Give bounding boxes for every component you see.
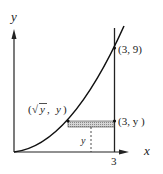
- label-point-sqrt-y-y: ( √ y , y ): [28, 103, 67, 116]
- label-point-3-9: (3, 9): [118, 43, 142, 56]
- x-axis-label: x: [143, 143, 150, 158]
- svg-text:y: y: [39, 103, 45, 115]
- diagram-canvas: y x 3 (3, 9) (3, y ) y ( √ y , y ): [0, 0, 163, 174]
- x-axis-arrow-icon: [119, 150, 129, 155]
- y-axis-arrow-icon: [12, 29, 17, 39]
- svg-text:): ): [63, 103, 67, 116]
- shaded-strip: [68, 121, 114, 127]
- point-3-9: [113, 46, 116, 49]
- label-strip-height-y: y: [80, 135, 86, 146]
- label-point-3-y: (3, y ): [118, 115, 145, 128]
- parabola-curve: [14, 26, 124, 152]
- svg-text:√: √: [32, 103, 39, 115]
- y-axis-label: y: [9, 9, 17, 24]
- point-3-y: [113, 119, 116, 122]
- svg-text:,: ,: [47, 103, 50, 115]
- x-tick-3: 3: [111, 155, 117, 167]
- y-axis: [12, 29, 17, 152]
- point-sqrt-y-y: [66, 119, 69, 122]
- x-axis: [14, 150, 129, 155]
- svg-text:y: y: [55, 103, 61, 115]
